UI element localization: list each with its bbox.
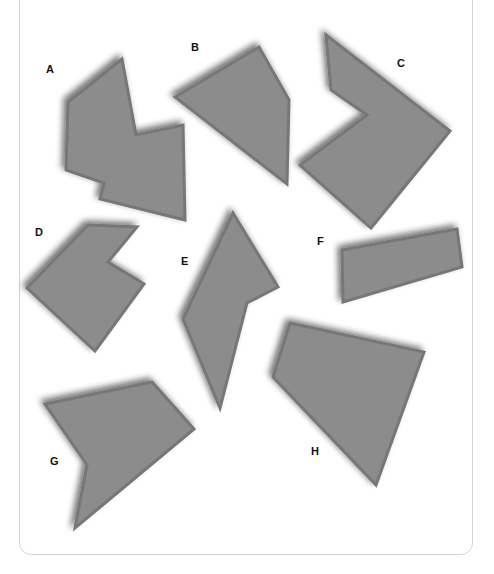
shape-e xyxy=(183,213,278,408)
label-f: F xyxy=(317,236,324,247)
polygon-a xyxy=(66,59,185,220)
label-d: D xyxy=(35,227,43,238)
shape-d xyxy=(27,225,144,351)
polygon-d xyxy=(27,225,144,351)
polygon-b xyxy=(175,47,289,184)
polygon-h xyxy=(273,323,424,485)
shape-g xyxy=(45,382,194,528)
shape-f xyxy=(342,229,462,302)
label-h: H xyxy=(311,446,319,457)
polygon-c xyxy=(300,35,450,228)
label-e: E xyxy=(181,256,188,267)
shapes-canvas xyxy=(0,0,494,574)
shape-c xyxy=(300,35,450,228)
label-g: G xyxy=(50,456,59,467)
shape-a xyxy=(66,59,185,220)
label-b: B xyxy=(191,42,199,53)
polygon-f xyxy=(342,229,462,302)
label-c: C xyxy=(397,58,405,69)
shape-h xyxy=(273,323,424,485)
shape-b xyxy=(175,47,289,184)
polygon-e xyxy=(183,213,278,408)
label-a: A xyxy=(46,64,54,75)
polygon-g xyxy=(45,382,194,528)
